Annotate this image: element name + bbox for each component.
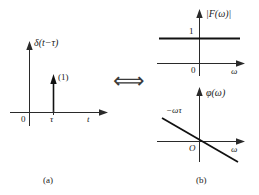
panel-b-phase-x-axis-label: ω — [231, 145, 237, 154]
caption-b: (b) — [196, 175, 207, 185]
caption-a: (a) — [43, 175, 53, 185]
figure-container: δ(t−τ) (1) 0 τ t ⟺ |F(ω)| 1 0 ω — [0, 0, 259, 195]
panel-b-phase-x-axis-arrowhead — [236, 138, 245, 144]
panel-b-phase-y-axis-arrowhead — [196, 87, 202, 96]
phase-slope-line — [162, 118, 238, 162]
phase-slope-label: −ωτ — [166, 106, 182, 115]
panel-b-phase-origin-label: O — [189, 144, 196, 153]
panel-b-phase-y-axis-label: φ(ω) — [206, 88, 225, 98]
